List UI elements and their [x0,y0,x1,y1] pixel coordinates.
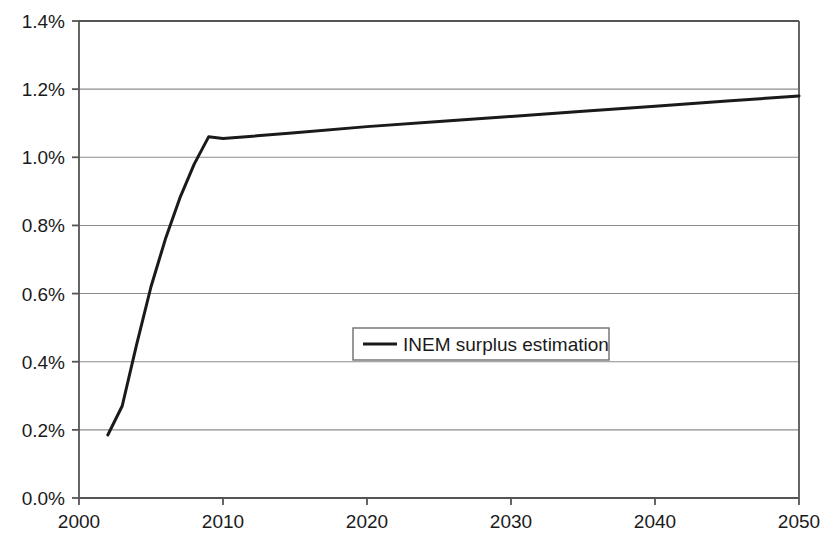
x-tick-label: 2050 [778,511,820,532]
y-tick-label: 0.2% [22,420,65,441]
y-tick-label: 0.4% [22,352,65,373]
legend-label: INEM surplus estimation [403,334,609,355]
x-tick-label: 2030 [490,511,532,532]
x-tick-label: 2000 [58,511,100,532]
chart-container: 0.0%0.2%0.4%0.6%0.8%1.0%1.2%1.4% 2000201… [0,0,830,550]
y-tick-label: 0.8% [22,215,65,236]
y-tick-label: 1.0% [22,147,65,168]
chart-legend: INEM surplus estimation [353,328,609,360]
y-tick-label: 0.0% [22,488,65,509]
y-tick-label: 0.6% [22,284,65,305]
y-tick-label: 1.4% [22,11,65,32]
x-tick-label: 2040 [634,511,676,532]
line-chart: 0.0%0.2%0.4%0.6%0.8%1.0%1.2%1.4% 2000201… [0,0,830,550]
chart-background [0,0,830,550]
x-tick-label: 2010 [202,511,244,532]
x-tick-label: 2020 [346,511,388,532]
y-tick-label: 1.2% [22,79,65,100]
